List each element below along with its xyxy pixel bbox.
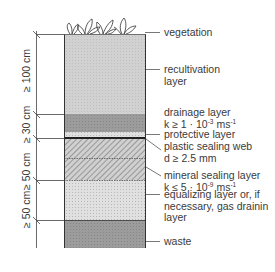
label-drainage: drainage layer k ≥ 1 · 10-3 ms-1	[164, 107, 236, 130]
label-recultivation: recultivation layer	[164, 64, 220, 87]
label-text: d ≥ 2.5 mm	[164, 153, 252, 165]
dimension-label-recultivation: ≥ 100 cm	[20, 49, 32, 92]
dimension-label-equalizing: ≥ 50 cm	[20, 191, 32, 228]
equalizing-layer	[64, 180, 145, 220]
dimension-lines	[33, 31, 64, 248]
label-waste: waste	[164, 236, 191, 248]
protective-layer	[64, 132, 145, 137]
dim-text: ≥ 100 cm	[20, 49, 32, 92]
dim-text: ≥ 30 cm	[20, 106, 32, 143]
dim-text: ≥ 50 cm	[20, 191, 32, 228]
label-text: vegetation	[164, 26, 212, 38]
label-text: recultivation	[164, 64, 220, 76]
dimension-label-sealing: ≥ 50 cm	[20, 153, 32, 190]
label-text: protective layer	[164, 128, 235, 140]
label-sealing-web: plastic sealing web d ≥ 2.5 mm	[164, 141, 252, 164]
plastic-sealing-web	[64, 137, 145, 139]
dim-text: ≥ 50 cm	[20, 153, 32, 190]
dimension-label-drainage: ≥ 30 cm	[20, 106, 32, 143]
drainage-layer	[64, 114, 145, 132]
label-text: waste	[164, 235, 191, 247]
label-text: plastic sealing web	[164, 141, 252, 153]
label-protective: protective layer	[164, 129, 235, 141]
label-text: layer	[164, 212, 268, 224]
mineral-sealing-layer	[64, 139, 145, 180]
label-equalizing: equalizing layer or, if necessary, gas d…	[164, 189, 268, 224]
leader-lines	[145, 33, 161, 242]
waste-layer	[64, 220, 145, 248]
vegetation-icon	[67, 18, 136, 34]
label-text: layer	[164, 76, 220, 88]
label-vegetation: vegetation	[164, 27, 212, 39]
label-text: equalizing layer or, if	[164, 189, 268, 201]
